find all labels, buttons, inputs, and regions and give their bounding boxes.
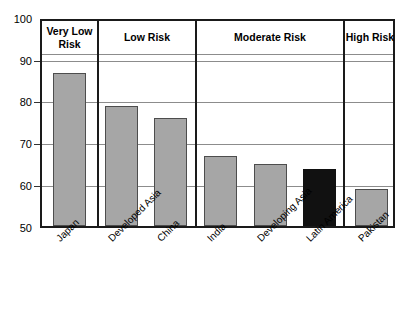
risk-group-very-low: Very Low Risk <box>42 21 97 54</box>
y-tick-label-80: 80 <box>20 97 32 108</box>
risk-group-band: Very Low Risk Low Risk Moderate Risk Hig… <box>42 21 393 55</box>
gridline-80 <box>42 102 393 103</box>
y-axis: 100 90 80 70 60 50 <box>0 0 40 309</box>
gridline-90 <box>42 61 393 62</box>
y-tick-label-90: 90 <box>20 56 32 67</box>
risk-group-low: Low Risk <box>99 21 195 54</box>
y-tick-label-100: 100 <box>14 14 32 25</box>
group-separator-2 <box>195 21 197 226</box>
bar-china <box>154 118 187 226</box>
bar-japan <box>53 73 86 226</box>
group-separator-1 <box>97 21 99 226</box>
bar-chart: 100 90 80 70 60 50 Very Low Risk Low Ris… <box>0 0 415 309</box>
bar-india <box>204 156 237 226</box>
risk-group-high: High Risk <box>345 21 395 54</box>
gridline-70 <box>42 144 393 145</box>
risk-group-moderate: Moderate Risk <box>197 21 343 54</box>
y-tick-label-70: 70 <box>20 139 32 150</box>
y-tick-label-50: 50 <box>20 223 32 234</box>
y-tick-label-60: 60 <box>20 181 32 192</box>
